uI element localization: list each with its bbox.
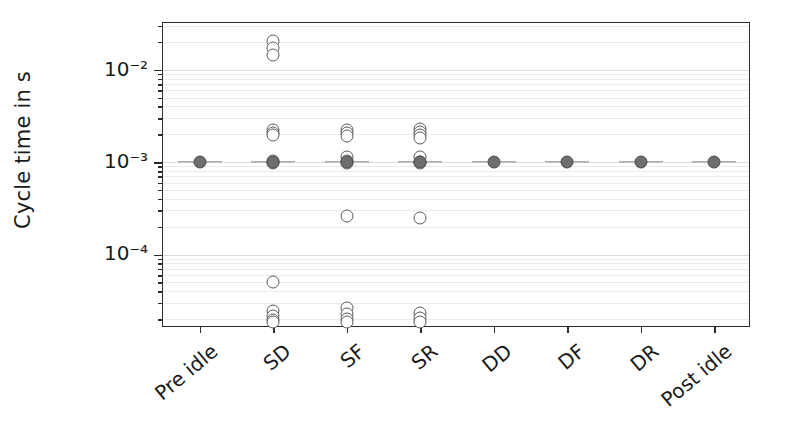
gridline-minor [163,190,749,191]
data-point-outlier [267,276,280,289]
data-point-median [267,156,280,169]
y-tick-minor [158,291,163,293]
y-tick-minor [158,134,163,136]
data-point-outlier [414,315,427,328]
y-tick-minor [158,74,163,76]
y-tick-minor [158,106,163,108]
gridline-minor [163,199,749,200]
gridline-minor [163,263,749,264]
y-tick-minor [158,118,163,120]
gridline-minor [163,291,749,292]
gridline-minor [163,84,749,85]
data-point-median [487,156,500,169]
data-point-median [340,156,353,169]
y-tick-minor [158,171,163,173]
x-tick [567,326,569,333]
y-tick-minor [158,319,163,321]
y-tick-major [154,162,163,164]
gridline-minor [163,303,749,304]
data-point-outlier [414,131,427,144]
figure-scatter-cycle-time: Cycle time in s 10⁻²10⁻³10⁻⁴ Pre idleSDS… [0,0,789,438]
x-tick [641,326,643,333]
gridline-minor [163,171,749,172]
y-tick-minor [158,210,163,212]
x-tick [200,326,202,333]
y-tick-minor [158,269,163,271]
data-point-outlier [267,316,280,329]
data-point-median [634,156,647,169]
y-tick-major [154,70,163,72]
gridline-minor [163,90,749,91]
data-point-median [414,156,427,169]
y-tick-label: 10⁻² [104,57,148,81]
y-tick-minor [158,42,163,44]
y-tick-minor [158,183,163,185]
gridline-minor [163,319,749,320]
data-point-outlier [267,129,280,142]
y-tick-minor [158,259,163,261]
y-axis-label: Cycle time in s [6,0,40,300]
gridline-minor [163,176,749,177]
gridline-minor [163,106,749,107]
gridline-minor [163,79,749,80]
data-point-outlier [340,316,353,329]
y-tick-minor [158,282,163,284]
gridline-minor [163,42,749,43]
gridline-minor [163,259,749,260]
gridline-minor [163,98,749,99]
gridline-minor [163,74,749,75]
y-tick-minor [158,199,163,201]
gridline-minor [163,166,749,167]
gridline-minor [163,227,749,228]
y-tick-minor [158,166,163,168]
y-tick-minor [158,190,163,192]
gridline-minor [163,275,749,276]
y-tick-label: 10⁻⁴ [104,241,148,265]
y-tick-minor [158,84,163,86]
x-tick [494,326,496,333]
plot-area [162,22,750,327]
y-tick-minor [158,275,163,277]
data-point-outlier [340,129,353,142]
data-point-median [561,156,574,169]
y-tick-minor [158,90,163,92]
y-tick-minor [158,263,163,265]
data-point-outlier [267,48,280,61]
y-tick-minor [158,98,163,100]
gridline-minor [163,282,749,283]
y-tick-minor [158,227,163,229]
gridline-minor [163,269,749,270]
x-tick [714,326,716,333]
gridline-minor [163,183,749,184]
gridline-minor [163,210,749,211]
data-point-outlier [340,210,353,223]
y-tick-label: 10⁻³ [104,149,148,173]
gridline-major [163,70,749,71]
gridline-minor [163,118,749,119]
y-tick-major [154,255,163,257]
gridline-minor [163,26,749,27]
y-tick-minor [158,176,163,178]
data-point-median [193,156,206,169]
data-point-median [708,156,721,169]
data-point-outlier [414,211,427,224]
y-tick-minor [158,303,163,305]
y-tick-minor [158,26,163,28]
gridline-minor [163,134,749,135]
gridline-major [163,255,749,256]
y-tick-minor [158,79,163,81]
